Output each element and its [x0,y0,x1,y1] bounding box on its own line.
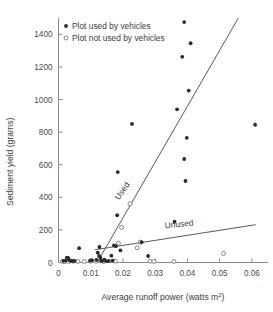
y-axis-title: Sediment yield (grams) [5,118,15,206]
data-point-used [109,254,113,258]
y-axis-tick-marks [59,34,63,262]
data-point-used [116,170,120,174]
data-point-used [182,20,186,24]
data-point-used [253,123,257,127]
data-point-used [73,259,77,263]
data-point-used [187,89,191,93]
y-tick-label: 1400 [34,30,53,39]
data-point-unused [116,241,120,245]
annotation-used-line-label: Used [112,180,131,202]
scatter-plot-svg: 0200400600800100012001400 Sediment yield… [0,0,273,312]
data-point-used [118,248,122,252]
y-tick-label: 0 [48,259,53,268]
y-axis-group: 0200400600800100012001400 Sediment yield… [5,18,63,268]
chart-container: 0200400600800100012001400 Sediment yield… [0,0,273,312]
data-point-used [182,157,186,161]
data-point-used [140,240,144,244]
legend-label-unused: Plot not used by vehicles [72,33,165,43]
data-point-unused [82,260,86,264]
x-tick-label: 0.01 [83,269,99,278]
y-tick-label: 200 [39,226,53,235]
data-point-unused [120,225,124,229]
x-tick-label: 0.03 [147,269,163,278]
data-point-unused [152,260,156,264]
x-axis-title-main: Average runoff power (watts m [102,292,219,302]
data-point-used [96,251,100,255]
legend-marker-filled-circle-icon [64,24,68,28]
data-point-unused [222,252,226,256]
line-annotations-group: UsedUnused [112,180,194,231]
data-point-used [98,245,102,249]
x-tick-label: 0.05 [212,269,228,278]
x-tick-label: 0.04 [179,269,195,278]
y-axis-tick-labels: 0200400600800100012001400 [34,30,53,267]
data-point-used [184,179,188,183]
annotation-unused-line-label: Unused [164,217,194,230]
series-plot-used-by-vehicles [61,20,257,263]
data-point-unused [172,260,176,264]
data-point-unused [135,246,139,250]
data-point-used [175,107,179,111]
data-point-used [107,259,111,263]
data-point-used [185,136,189,140]
data-point-used [189,41,193,45]
x-tick-label: 0.06 [244,269,260,278]
data-point-used [130,122,134,126]
series-plot-not-used-by-vehicles [60,202,225,264]
y-tick-label: 400 [39,193,53,202]
y-tick-label: 1200 [34,63,53,72]
x-tick-label: 0 [56,269,61,278]
x-tick-label: 0.02 [115,269,131,278]
data-point-used [115,213,119,217]
data-point-used [90,258,94,262]
data-point-unused [128,202,132,206]
x-axis-tick-labels: 00.010.020.030.040.050.06 [56,269,260,278]
y-tick-label: 1000 [34,96,53,105]
data-point-unused [76,260,80,264]
y-tick-label: 600 [39,161,53,170]
data-point-unused [148,259,152,263]
legend: Plot used by vehicles Plot not used by v… [64,21,165,43]
data-point-used [146,254,150,258]
legend-label-used: Plot used by vehicles [72,21,151,31]
data-point-used [180,55,184,59]
data-point-used [95,258,99,262]
data-point-used [114,244,118,248]
x-axis-title: Average runoff power (watts m2) [102,292,225,302]
x-axis-title-tail: ) [222,292,225,302]
legend-marker-open-circle-icon [64,36,68,40]
data-point-used [77,246,81,250]
data-point-used [111,259,115,263]
y-tick-label: 800 [39,128,53,137]
x-axis-group: 00.010.020.030.040.050.06 Average runoff… [56,259,268,303]
